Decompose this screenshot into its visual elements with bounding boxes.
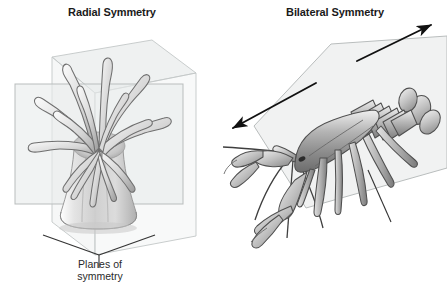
- panel-radial-symmetry: Radial Symmetry: [0, 0, 224, 295]
- radial-symmetry-illustration: [0, 0, 224, 295]
- bilateral-symmetry-illustration: [223, 0, 447, 295]
- lobster-claw-right: [251, 172, 307, 248]
- radial-symmetry-title: Radial Symmetry: [0, 6, 224, 18]
- panel-bilateral-symmetry: Bilateral Symmetry: [223, 0, 447, 295]
- bilateral-symmetry-title: Bilateral Symmetry: [223, 6, 447, 18]
- symmetry-figure: Radial Symmetry: [0, 0, 447, 295]
- planes-of-symmetry-caption: Planes of symmetry: [44, 258, 156, 282]
